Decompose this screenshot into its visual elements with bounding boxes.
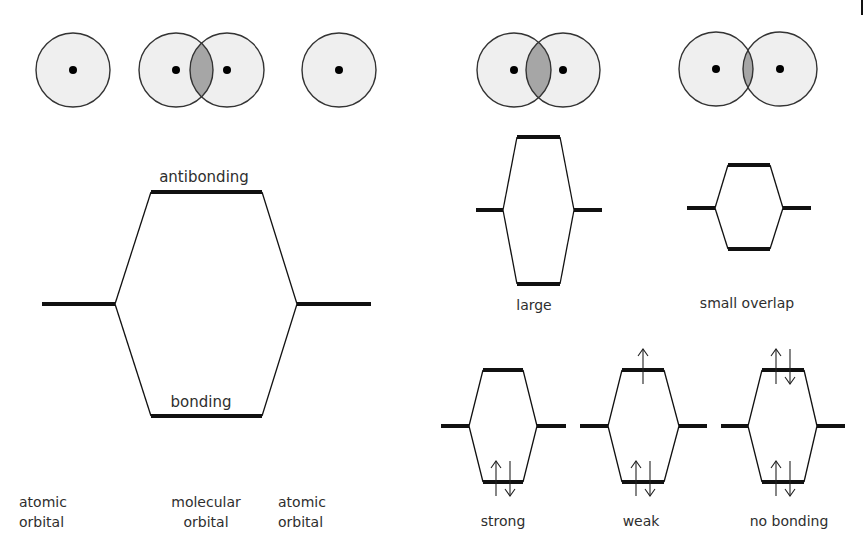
correlation-line <box>770 165 783 208</box>
correlation-line <box>748 370 762 426</box>
nucleus-dot <box>559 66 567 74</box>
right-atomic-orbital-label: atomic orbital <box>278 492 326 532</box>
no-bonding-label: no bonding <box>750 511 829 531</box>
correlation-line <box>608 426 622 482</box>
correlation-line <box>262 304 297 416</box>
diagram-graphics <box>36 32 845 496</box>
large-overlap-label: large <box>516 295 551 315</box>
correlation-line <box>608 370 622 426</box>
label-line: molecular <box>171 492 241 512</box>
correlation-line <box>664 370 679 426</box>
bonding-label: bonding <box>171 392 232 412</box>
mo-diagram-canvas <box>0 0 867 558</box>
correlation-line <box>523 426 537 482</box>
correlation-line <box>715 208 728 249</box>
correlation-line <box>715 165 728 208</box>
correlation-line <box>262 192 297 304</box>
molecular-orbital-label: molecular orbital <box>171 492 241 532</box>
correlation-line <box>804 370 817 426</box>
correlation-line <box>503 137 517 210</box>
label-line: atomic <box>19 492 67 512</box>
nucleus-dot <box>172 66 180 74</box>
nucleus-dot <box>335 66 343 74</box>
label-line: orbital <box>19 512 67 532</box>
nucleus-dot <box>712 65 720 73</box>
correlation-line <box>115 304 151 416</box>
correlation-line <box>115 192 151 304</box>
correlation-line <box>664 426 679 482</box>
correlation-line <box>804 426 817 482</box>
nucleus-dot <box>69 66 77 74</box>
corner-bar <box>861 0 863 15</box>
nucleus-dot <box>223 66 231 74</box>
label-line: orbital <box>278 512 326 532</box>
nucleus-dot <box>510 66 518 74</box>
correlation-line <box>469 426 483 482</box>
strong-bonding-label: strong <box>481 511 526 531</box>
correlation-line <box>560 137 574 210</box>
correlation-line <box>523 370 537 426</box>
correlation-line <box>503 210 517 284</box>
correlation-line <box>748 426 762 482</box>
small-overlap-label: small overlap <box>700 293 794 313</box>
correlation-line <box>560 210 574 284</box>
antibonding-label: antibonding <box>159 167 249 187</box>
correlation-line <box>770 208 783 249</box>
label-line: orbital <box>171 512 241 532</box>
nucleus-dot <box>776 65 784 73</box>
label-line: atomic <box>278 492 326 512</box>
left-atomic-orbital-label: atomic orbital <box>19 492 67 532</box>
weak-bonding-label: weak <box>623 511 660 531</box>
correlation-line <box>469 370 483 426</box>
